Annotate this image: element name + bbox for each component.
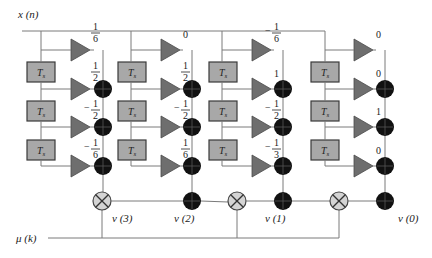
coefficient-label: −12	[265, 98, 281, 121]
coefficient-label: −12	[84, 98, 100, 121]
svg-text:2: 2	[274, 110, 279, 121]
delay-block-ts: Ts	[27, 62, 55, 82]
adder-node	[376, 118, 394, 136]
coefficient-label: 16	[91, 21, 100, 44]
delay-block-ts: Ts	[209, 101, 237, 121]
gain-triangle	[161, 155, 180, 177]
gain-triangle	[161, 39, 180, 61]
diagram-svg: x (n)μ (k)TsTsTs1612−12−16TsTsTs012−1216…	[0, 0, 432, 258]
output-label-v3: v (3)	[112, 212, 133, 225]
svg-text:2: 2	[183, 72, 188, 83]
filter-col-4: TsTsTs0010	[311, 29, 381, 177]
svg-text:1: 1	[93, 137, 98, 148]
svg-text:1: 1	[274, 68, 279, 79]
svg-text:1: 1	[274, 137, 279, 148]
svg-text:−: −	[265, 141, 271, 152]
coefficient-label: 0	[376, 145, 381, 156]
svg-text:0: 0	[183, 29, 188, 40]
gain-triangle	[252, 116, 271, 138]
svg-text:2: 2	[93, 72, 98, 83]
svg-text:0: 0	[376, 145, 381, 156]
mu-label: μ (k)	[15, 232, 37, 245]
adder-node	[94, 157, 112, 175]
output-label-v1: v (1)	[265, 212, 286, 225]
svg-text:6: 6	[183, 149, 188, 160]
adder-node	[274, 118, 292, 136]
svg-text:−: −	[174, 102, 180, 113]
gain-triangle	[71, 116, 90, 138]
gain-triangle	[71, 39, 90, 61]
delay-block-ts: Ts	[118, 62, 146, 82]
final-adder-node	[376, 192, 394, 210]
delay-block-ts: Ts	[118, 101, 146, 121]
chain-wire	[201, 201, 228, 202]
svg-text:1: 1	[93, 60, 98, 71]
svg-text:1: 1	[274, 21, 279, 32]
coefficient-label: 12	[181, 60, 190, 83]
farrow-structure-diagram: x (n)μ (k)TsTsTs1612−12−16TsTsTs012−1216…	[0, 0, 432, 258]
svg-text:−: −	[265, 102, 271, 113]
delay-block-ts: Ts	[209, 62, 237, 82]
coefficient-label: 1	[376, 106, 381, 117]
svg-text:0: 0	[376, 29, 381, 40]
coefficient-label: −12	[174, 98, 190, 121]
output-label-v2: v (2)	[174, 212, 195, 225]
filter-col-1: TsTsTs1612−12−16	[27, 21, 100, 177]
final-adder-node	[183, 192, 201, 210]
gain-triangle	[161, 78, 180, 100]
svg-text:0: 0	[376, 68, 381, 79]
svg-text:2: 2	[93, 110, 98, 121]
coefficient-label: −16	[265, 21, 281, 44]
coefficient-label: 0	[376, 29, 381, 40]
svg-text:−: −	[84, 141, 90, 152]
gain-triangle	[354, 39, 373, 61]
gain-triangle	[354, 116, 373, 138]
gain-triangle	[71, 155, 90, 177]
svg-text:6: 6	[93, 149, 98, 160]
multiplier-node	[228, 192, 246, 210]
coefficient-label: −16	[84, 137, 100, 160]
coefficient-label: 0	[376, 68, 381, 79]
filter-col-2: TsTsTs012−1216	[118, 29, 190, 177]
coefficient-label: 0	[183, 29, 188, 40]
adder-node	[274, 157, 292, 175]
gain-triangle	[252, 78, 271, 100]
adder-node	[376, 157, 394, 175]
adder-node	[94, 118, 112, 136]
svg-text:6: 6	[274, 33, 279, 44]
final-adder-node	[274, 192, 292, 210]
svg-text:−: −	[84, 102, 90, 113]
adder-node	[274, 80, 292, 98]
svg-text:−: −	[265, 25, 271, 36]
coefficient-label: 1	[274, 68, 279, 79]
coefficient-label: −13	[265, 137, 281, 160]
svg-text:6: 6	[93, 33, 98, 44]
filter-col-3: TsTsTs−161−12−13	[209, 21, 281, 177]
delay-block-ts: Ts	[118, 140, 146, 160]
gain-triangle	[354, 155, 373, 177]
adder-node	[183, 80, 201, 98]
svg-text:1: 1	[183, 137, 188, 148]
svg-text:1: 1	[376, 106, 381, 117]
delay-block-ts: Ts	[27, 101, 55, 121]
adder-node	[183, 157, 201, 175]
coefficient-label: 16	[181, 137, 190, 160]
gain-triangle	[161, 116, 180, 138]
coefficient-label: 12	[91, 60, 100, 83]
svg-text:1: 1	[274, 98, 279, 109]
delay-block-ts: Ts	[27, 140, 55, 160]
gain-triangle	[354, 78, 373, 100]
adder-node	[183, 118, 201, 136]
input-label: x (n)	[17, 8, 39, 21]
output-label-v0: v (0)	[398, 212, 419, 225]
delay-block-ts: Ts	[209, 140, 237, 160]
delay-block-ts: Ts	[311, 62, 339, 82]
svg-text:2: 2	[183, 110, 188, 121]
adder-node	[94, 80, 112, 98]
svg-text:1: 1	[183, 60, 188, 71]
svg-text:1: 1	[93, 21, 98, 32]
gain-triangle	[71, 78, 90, 100]
svg-text:1: 1	[183, 98, 188, 109]
svg-text:3: 3	[274, 149, 279, 160]
delay-block-ts: Ts	[311, 101, 339, 121]
